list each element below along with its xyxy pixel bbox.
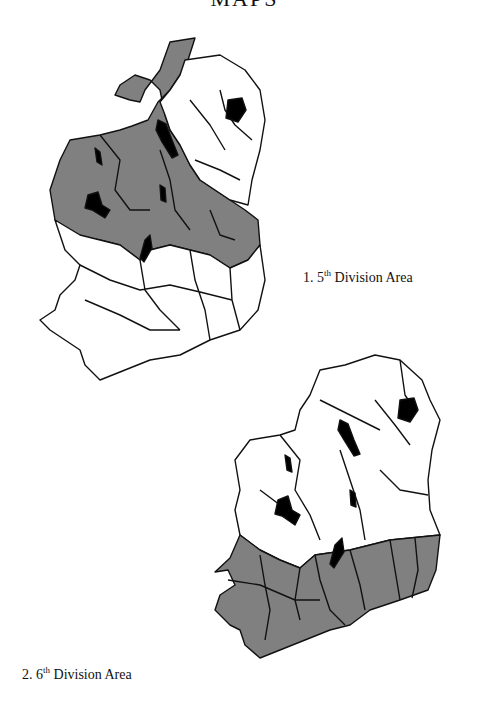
map-6th-division: [200, 340, 480, 680]
figure-ordinal: 6: [36, 667, 43, 682]
figure-label: Division Area: [335, 270, 413, 285]
figure-number: 2.: [22, 667, 33, 682]
figure-caption-1: 1. 5th Division Area: [303, 268, 413, 286]
lough-ree: [350, 490, 356, 507]
figure-caption-2: 2. 6th Division Area: [22, 665, 132, 683]
unshaded-region-north: [235, 355, 440, 568]
map-5th-division: [20, 30, 280, 390]
figure-label: Division Area: [54, 667, 132, 682]
figure-number: 1.: [303, 270, 314, 285]
figure-ordinal-suffix: th: [324, 268, 331, 278]
lough-ree: [160, 185, 166, 202]
shaded-region: [215, 535, 440, 658]
figure-ordinal: 5: [317, 270, 324, 285]
figure-ordinal-suffix: th: [43, 665, 50, 675]
page-title: MAPS: [0, 0, 489, 12]
